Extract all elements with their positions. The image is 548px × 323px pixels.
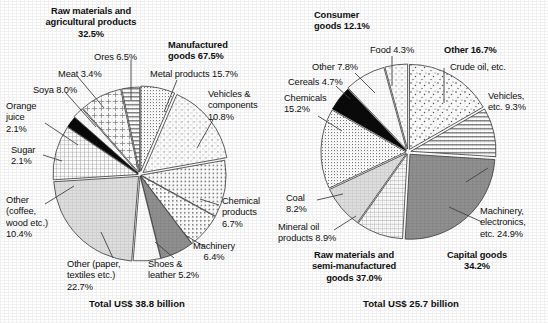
total-imports: Total US$ 25.7 billion	[274, 298, 548, 309]
label-mineral-line1: Mineral oil	[278, 222, 336, 233]
label-other-paper-textiles: Other (paper, textiles etc.) 22.7%	[67, 259, 120, 293]
label-vehicles-line3: 10.8%	[208, 112, 258, 123]
label-vehicles-imp-line2: etc. 9.3%	[488, 102, 526, 113]
group-label-raw-materials: Raw materials and agricultural products …	[8, 6, 174, 40]
label-orange-line2: juice	[6, 112, 36, 123]
group-label-manufactured: Manufactured goods 67.5%	[168, 40, 268, 63]
label-vehicles-imp-line1: Vehicles,	[488, 91, 526, 102]
label-machinery: Machinery 6.4%	[193, 241, 235, 264]
label-orange-line3: 2.1%	[6, 124, 36, 135]
label-mach-el-line2: electronics,	[480, 217, 526, 228]
label-chemicals-line2: 15.2%	[284, 104, 327, 115]
pie-slices-exports	[53, 86, 227, 261]
label-shoes-line1: Shoes &	[148, 259, 199, 270]
label-other-coffee-line4: 10.4%	[6, 229, 48, 240]
slice-other-paper-textiles-etc[interactable]	[54, 176, 139, 261]
label-machinery-electronics: Machinery, electronics, etc. 24.9%	[480, 206, 526, 240]
label-sugar-line1: Sugar	[11, 145, 35, 156]
label-crude-oil: Crude oil, etc.	[450, 62, 506, 73]
label-orange-line1: Orange	[6, 101, 36, 112]
label-vehicles-imports: Vehicles, etc. 9.3%	[488, 91, 526, 114]
pie-chart-exports: Raw materials and agricultural products …	[0, 0, 274, 323]
label-sugar: Sugar 2.1%	[11, 145, 35, 168]
group-label-other: Other 16.7%	[444, 45, 497, 56]
label-chemicals-line1: Chemicals	[284, 93, 327, 104]
group-label-mfg-line1: Manufactured	[168, 40, 268, 51]
group-label-rawsemi-line3: goods 37.0%	[282, 273, 426, 284]
label-soya: Soya 8.0%	[33, 85, 77, 96]
label-shoes-leather: Shoes & leather 5.2%	[148, 259, 199, 282]
label-chemical-line3: 6.7%	[222, 219, 260, 230]
label-machinery-line1: Machinery	[193, 241, 235, 252]
total-exports: Total US$ 38.8 billion	[0, 298, 274, 309]
group-label-rawsemi-line1: Raw materials and	[282, 250, 426, 261]
label-mineral-oil-products: Mineral oil products 8.9%	[278, 222, 336, 245]
label-metal-products: Metal products 15.7%	[150, 69, 238, 80]
label-mach-el-line1: Machinery,	[480, 206, 526, 217]
label-chemical-line1: Chemical	[222, 196, 260, 207]
group-label-capital-goods: Capital goods 34.2%	[422, 250, 532, 273]
label-other-paper-line3: 22.7%	[67, 282, 120, 293]
label-chemical-line2: products	[222, 207, 260, 218]
group-label-rawsemi-line2: semi-manufactured	[282, 261, 426, 272]
label-other-coffee-wood: Other (coffee, wood etc.) 10.4%	[6, 195, 48, 241]
group-label-consumer-line2: goods 12.1%	[314, 21, 424, 32]
label-machinery-line2: 6.4%	[193, 252, 235, 263]
group-label-raw-line3: 32.5%	[8, 29, 174, 40]
group-label-raw-semi: Raw materials and semi-manufactured good…	[282, 250, 426, 284]
label-mach-el-line3: etc. 24.9%	[480, 229, 526, 240]
label-meat: Meat 3.4%	[58, 69, 102, 80]
label-vehicles-line1: Vehicles &	[208, 89, 258, 100]
group-label-mfg-line2: goods 67.5%	[168, 51, 268, 62]
group-label-consumer-goods: Consumer goods 12.1%	[314, 10, 424, 33]
label-mineral-line2: products 8.9%	[278, 233, 336, 244]
label-other-paper-line1: Other (paper,	[67, 259, 120, 270]
group-label-raw-line2: agricultural products	[8, 17, 174, 28]
group-label-consumer-line1: Consumer	[314, 10, 424, 21]
label-other-coffee-line3: wood etc.)	[6, 218, 48, 229]
pie-chart-imports: Consumer goods 12.1% Other 16.7% Food 4.…	[274, 0, 548, 323]
label-vehicles-line2: components	[208, 100, 258, 111]
label-cereals: Cereals 4.7%	[288, 77, 343, 88]
label-orange-juice: Orange juice 2.1%	[6, 101, 36, 135]
label-sugar-line2: 2.1%	[11, 156, 35, 167]
label-other-78: Other 7.8%	[312, 62, 358, 73]
label-shoes-line2: leather 5.2%	[148, 270, 199, 281]
label-vehicles-components: Vehicles & components 10.8%	[208, 89, 258, 123]
group-label-capital-line2: 34.2%	[422, 261, 532, 272]
label-coal: Coal 8.2%	[286, 193, 307, 216]
leader-mineral	[334, 216, 356, 230]
label-food: Food 4.3%	[370, 45, 414, 56]
label-other-coffee-line1: Other	[6, 195, 48, 206]
label-ores: Ores 6.5%	[94, 52, 137, 63]
group-label-capital-line1: Capital goods	[422, 250, 532, 261]
label-chemical-products: Chemical products 6.7%	[222, 196, 260, 230]
label-other-paper-line2: textiles etc.)	[67, 270, 120, 281]
label-coal-line1: Coal	[286, 193, 307, 204]
label-coal-line2: 8.2%	[286, 204, 307, 215]
label-chemicals: Chemicals 15.2%	[284, 93, 327, 116]
group-label-raw-line1: Raw materials and	[8, 6, 174, 17]
label-other-coffee-line2: (coffee,	[6, 206, 48, 217]
pie-slices-imports	[321, 64, 496, 239]
